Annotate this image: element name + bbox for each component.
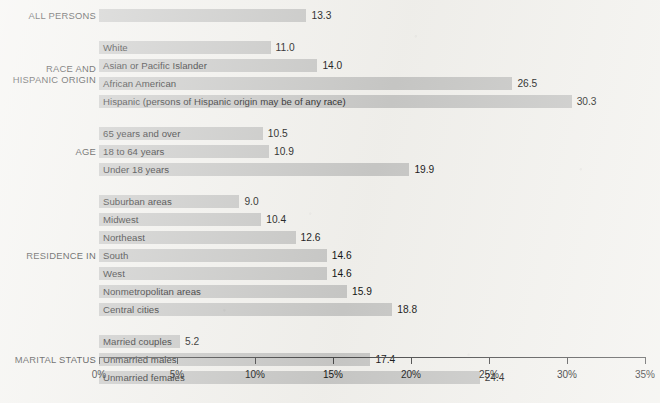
bar-row: West14.6 xyxy=(99,267,645,280)
bar-value-label: 18.8 xyxy=(397,304,417,314)
bar-row: African American26.5 xyxy=(99,77,645,90)
bar-category-label: Northeast xyxy=(103,233,145,243)
bar-row: Midwest10.4 xyxy=(99,213,645,226)
bar-category-label: Midwest xyxy=(103,215,138,225)
bar-category-label: 65 years and over xyxy=(103,129,180,139)
bar-category-label: White xyxy=(103,43,128,53)
bar-value-label: 9.0 xyxy=(244,196,258,206)
group-label-all-persons: ALL PERSONS xyxy=(28,10,96,22)
x-axis-tick-label: 5% xyxy=(170,370,184,380)
bar-value-label: 10.5 xyxy=(268,128,288,138)
bar-category-label: Hispanic (persons of Hispanic origin may… xyxy=(103,97,346,107)
x-axis-tick xyxy=(255,357,256,364)
bar-row: Asian or Pacific Islander14.0 xyxy=(99,59,645,72)
bar-value-label: 13.3 xyxy=(311,10,331,20)
group-label-line: RESIDENCE IN xyxy=(26,250,96,262)
bar-value-label: 14.6 xyxy=(332,250,352,260)
bar-row: Married couples5.2 xyxy=(99,335,645,348)
bar-category-label: Under 18 years xyxy=(103,165,169,175)
bar-category-label: Asian or Pacific Islander xyxy=(103,61,207,71)
bar-row: Central cities18.8 xyxy=(99,303,645,316)
bar-value-label: 19.9 xyxy=(414,164,434,174)
bar-row: South14.6 xyxy=(99,249,645,262)
bar-value-label: 10.4 xyxy=(266,214,286,224)
bar-value-label: 17.4 xyxy=(375,354,395,364)
bar-category-label: Suburban areas xyxy=(103,197,172,207)
bar-row: Northeast12.6 xyxy=(99,231,645,244)
group-label-race-and-hispanic-origin: RACE ANDHISPANIC ORIGIN xyxy=(13,63,96,86)
bar-value-label: 30.3 xyxy=(577,96,597,106)
x-axis-tick-label: 20% xyxy=(401,370,421,380)
group-label-line: MARITAL STATUS xyxy=(15,354,96,366)
group-label-age: AGE xyxy=(75,146,96,158)
bar-value-label: 26.5 xyxy=(517,78,537,88)
x-axis-tick xyxy=(645,357,646,364)
bar-value-label: 15.9 xyxy=(352,286,372,296)
bar-row: Hispanic (persons of Hispanic origin may… xyxy=(99,95,645,108)
bar-row: 13.3 xyxy=(99,9,645,22)
bar-value-label: 10.9 xyxy=(274,146,294,156)
bar-category-label: South xyxy=(103,251,128,261)
bar-value-label: 12.6 xyxy=(301,232,321,242)
group-label-residence-in: RESIDENCE IN xyxy=(26,250,96,262)
bar-category-label: African American xyxy=(103,79,176,89)
group-label-line: ALL PERSONS xyxy=(28,10,96,22)
bar-value-label: 5.2 xyxy=(185,336,199,346)
bar xyxy=(99,9,306,22)
group-label-line: AGE xyxy=(75,146,96,158)
bar-row: 65 years and over10.5 xyxy=(99,127,645,140)
bar xyxy=(99,267,327,280)
bar-category-label: Married couples xyxy=(103,337,172,347)
bar-category-label: 18 to 64 years xyxy=(103,147,164,157)
bar-row: Suburban areas9.0 xyxy=(99,195,645,208)
x-axis-tick xyxy=(489,357,490,364)
bar-category-label: West xyxy=(103,269,125,279)
bar-row: Under 18 years19.9 xyxy=(99,163,645,176)
x-axis-tick-label: 35% xyxy=(635,370,655,380)
x-axis-tick-label: 30% xyxy=(557,370,577,380)
bar-row: 18 to 64 years10.9 xyxy=(99,145,645,158)
group-label-line: HISPANIC ORIGIN xyxy=(13,74,96,86)
bar-value-label: 14.0 xyxy=(322,60,342,70)
bar-value-label: 14.6 xyxy=(332,268,352,278)
x-axis-line xyxy=(99,357,645,358)
bar-category-label: Nonmetropolitan areas xyxy=(103,287,201,297)
bar-row: Nonmetropolitan areas15.9 xyxy=(99,285,645,298)
bar-value-label: 11.0 xyxy=(276,42,295,52)
x-axis-tick xyxy=(177,357,178,364)
bar xyxy=(99,249,327,262)
x-axis-tick-label: 15% xyxy=(323,370,343,380)
group-label-marital-status: MARITAL STATUS xyxy=(15,354,96,366)
bar-row: Unmarried males17.4 xyxy=(99,353,645,366)
x-axis-tick xyxy=(567,357,568,364)
x-axis-tick-label: 0% xyxy=(92,370,106,380)
x-axis-tick-label: 10% xyxy=(245,370,265,380)
group-label-line: RACE AND xyxy=(13,63,96,75)
x-axis-tick-label: 25% xyxy=(479,370,499,380)
x-axis-tick xyxy=(333,357,334,364)
poverty-rate-bar-chart: 13.3ALL PERSONSWhite11.0Asian or Pacific… xyxy=(0,0,660,403)
bar-row: White11.0 xyxy=(99,41,645,54)
bar-category-label: Central cities xyxy=(103,305,159,315)
x-axis-tick xyxy=(99,357,100,364)
x-axis-tick xyxy=(411,357,412,364)
